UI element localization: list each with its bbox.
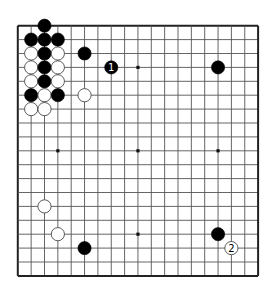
black-stone[interactable]: [38, 47, 51, 60]
black-stone[interactable]: [51, 33, 64, 46]
black-stone[interactable]: [38, 61, 51, 74]
white-stone[interactable]: [51, 75, 64, 88]
black-stone[interactable]: [51, 89, 64, 102]
stone-disc: [51, 61, 64, 74]
stone-disc: [78, 47, 91, 60]
black-stone[interactable]: [25, 33, 38, 46]
black-stone[interactable]: [78, 242, 91, 255]
black-stone[interactable]: [211, 61, 224, 74]
stone-disc: [38, 61, 51, 74]
move-number-label: 1: [108, 62, 114, 73]
stone-disc: [38, 19, 51, 32]
stone-disc: [25, 89, 38, 102]
white-stone[interactable]: 2: [225, 242, 238, 255]
star-point: [216, 149, 219, 152]
star-point: [56, 149, 59, 152]
stone-disc: [25, 75, 38, 88]
stone-disc: [25, 33, 38, 46]
star-point: [136, 66, 139, 69]
stone-disc: [38, 89, 51, 102]
white-stone[interactable]: [51, 228, 64, 241]
go-board-canvas[interactable]: 12: [0, 0, 272, 295]
black-stone[interactable]: [38, 75, 51, 88]
white-stone[interactable]: [25, 103, 38, 116]
stone-disc: [38, 33, 51, 46]
stone-disc: [38, 47, 51, 60]
white-stone[interactable]: [38, 200, 51, 213]
black-stone[interactable]: [25, 89, 38, 102]
stone-disc: [25, 61, 38, 74]
go-board[interactable]: 12: [0, 0, 272, 295]
black-stone[interactable]: [38, 19, 51, 32]
black-stone[interactable]: [211, 228, 224, 241]
stone-disc: [51, 89, 64, 102]
stone-disc: [38, 103, 51, 116]
black-stone[interactable]: [38, 33, 51, 46]
white-stone[interactable]: [25, 61, 38, 74]
stone-disc: [51, 47, 64, 60]
white-stone[interactable]: [38, 89, 51, 102]
stone-disc: [51, 228, 64, 241]
white-stone[interactable]: [25, 75, 38, 88]
white-stone[interactable]: [78, 89, 91, 102]
stone-disc: [38, 200, 51, 213]
black-stone[interactable]: 1: [105, 61, 118, 74]
stone-disc: [51, 75, 64, 88]
stone-disc: [38, 75, 51, 88]
star-point: [136, 149, 139, 152]
stone-disc: [51, 33, 64, 46]
star-point: [136, 233, 139, 236]
white-stone[interactable]: [25, 47, 38, 60]
stone-disc: [78, 242, 91, 255]
stone-disc: [211, 228, 224, 241]
stone-disc: [25, 103, 38, 116]
stone-disc: [25, 47, 38, 60]
black-stone[interactable]: [78, 47, 91, 60]
white-stone[interactable]: [51, 61, 64, 74]
white-stone[interactable]: [38, 103, 51, 116]
white-stone[interactable]: [51, 47, 64, 60]
move-number-label: 2: [228, 243, 234, 254]
stone-disc: [211, 61, 224, 74]
stone-disc: [78, 89, 91, 102]
